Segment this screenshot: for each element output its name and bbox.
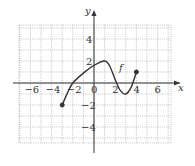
x-tick-label: −4 xyxy=(46,84,61,95)
x-tick-label: −6 xyxy=(24,84,39,95)
x-tick-label: 4 xyxy=(133,84,139,95)
y-tick-label: −4 xyxy=(81,122,96,133)
y-tick-label: 4 xyxy=(86,34,92,45)
y-tick-label: 2 xyxy=(86,56,92,67)
x-axis-label: x xyxy=(178,82,184,93)
y-axis-label: y xyxy=(84,5,91,16)
x-tick-label: 0 xyxy=(91,84,97,95)
axes xyxy=(13,10,180,153)
curve-label-f: f xyxy=(118,62,125,73)
x-tick-label: 6 xyxy=(155,84,161,95)
y-tick-label: −2 xyxy=(81,100,96,111)
endpoint-dot xyxy=(60,103,64,107)
endpoint-dot xyxy=(134,70,138,74)
function-graph: −6−4−2024642−2−4 y x f xyxy=(0,0,195,166)
